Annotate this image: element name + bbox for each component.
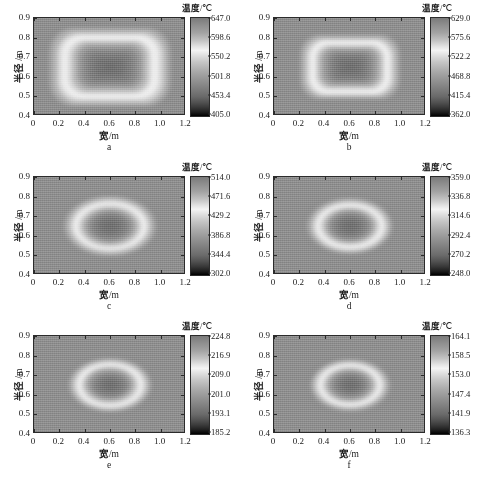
x-tick-label: 0.4 <box>318 436 329 446</box>
plot-area <box>33 335 185 433</box>
x-tick <box>135 336 136 339</box>
x-tick <box>325 336 326 339</box>
y-tick-label: 0.7 <box>248 369 270 379</box>
y-tick-label: 0.8 <box>8 32 30 42</box>
x-tick-label: 0.4 <box>318 118 329 128</box>
y-tick-label: 0.6 <box>248 389 270 399</box>
y-tick <box>421 18 424 19</box>
x-tick-label: 0 <box>31 436 36 446</box>
colorbar-ticks-e: 224.8216.9209.0201.0193.1185.2 <box>211 335 241 433</box>
x-tick-label: 0.2 <box>53 277 64 287</box>
x-tick <box>299 429 300 432</box>
x-tick <box>59 177 60 180</box>
x-tick <box>401 336 402 339</box>
x-tick <box>110 111 111 114</box>
colorbar-gradient <box>431 336 449 434</box>
colorbar-tick-label: 147.4 <box>451 389 470 399</box>
colorbar-gradient <box>191 177 209 275</box>
y-tick-label: 0.9 <box>8 330 30 340</box>
plot-f: 半径 /m <box>273 335 425 433</box>
plot-area <box>273 176 425 274</box>
x-tick-label: 1.2 <box>419 436 430 446</box>
x-tick <box>135 177 136 180</box>
x-tick <box>375 111 376 114</box>
y-tick-label: 0.6 <box>8 71 30 81</box>
y-tick <box>181 216 184 217</box>
x-tick <box>110 177 111 180</box>
panel-a: 温度/℃ 半径 /m 0.40.50.60.70.80.9 00.20.40.6… <box>0 0 240 159</box>
x-tick <box>274 429 275 432</box>
x-tick <box>161 111 162 114</box>
y-tick <box>274 236 277 237</box>
colorbar-tick-label: 362.0 <box>451 109 470 119</box>
colorbar-ticks-b: 629.0575.6522.2468.8415.4362.0 <box>451 17 480 115</box>
colorbar-tick-label: 141.9 <box>451 408 470 418</box>
y-tick-label: 0.5 <box>248 249 270 259</box>
y-tick <box>421 356 424 357</box>
panel-f: 温度/℃ 半径 /m 0.40.50.60.70.80.9 00.20.40.6… <box>240 318 480 477</box>
y-tick-label: 0.4 <box>248 110 270 120</box>
colorbar-ticks-c: 514.0471.6429.2386.8344.4302.0 <box>211 176 241 274</box>
y-tick-label: 0.6 <box>8 230 30 240</box>
x-tick-label: 1.2 <box>179 118 190 128</box>
x-tick-label: 0 <box>31 118 36 128</box>
x-tick <box>59 429 60 432</box>
panel-letter-a: a <box>33 142 185 152</box>
x-tick-label: 0.8 <box>369 277 380 287</box>
y-tick-label: 0.5 <box>8 408 30 418</box>
y-tick <box>34 236 37 237</box>
panel-e: 温度/℃ 半径 /m 0.40.50.60.70.80.9 00.20.40.6… <box>0 318 240 477</box>
field-noise <box>274 177 424 273</box>
y-tick <box>421 336 424 337</box>
x-tick <box>59 111 60 114</box>
panel-letter-b: b <box>273 142 425 152</box>
y-tick <box>34 395 37 396</box>
x-tick-label: 0.8 <box>129 118 140 128</box>
x-tick <box>350 336 351 339</box>
x-tick-label: 0.4 <box>78 277 89 287</box>
plot-area <box>33 17 185 115</box>
x-tick <box>375 177 376 180</box>
y-tick <box>181 96 184 97</box>
y-tick <box>34 375 37 376</box>
temperature-field <box>274 336 424 432</box>
y-tick-label: 0.9 <box>248 171 270 181</box>
x-tick <box>325 111 326 114</box>
x-tick <box>350 270 351 273</box>
x-tick <box>135 18 136 21</box>
x-tick <box>401 177 402 180</box>
x-tick-label: 1.2 <box>179 436 190 446</box>
colorbar-b <box>430 17 450 117</box>
temperature-field <box>274 18 424 114</box>
x-tick <box>85 270 86 273</box>
field-noise <box>34 18 184 114</box>
colorbar-tick-label: 550.2 <box>211 51 230 61</box>
panel-d: 温度/℃ 半径 /m 0.40.50.60.70.80.9 00.20.40.6… <box>240 159 480 318</box>
x-tick-label: 0.2 <box>53 118 64 128</box>
y-tick-label: 0.5 <box>8 90 30 100</box>
plot-area <box>33 176 185 274</box>
colorbar-tick-label: 302.0 <box>211 268 230 278</box>
y-tick <box>274 96 277 97</box>
x-axis-title: 宽/m <box>273 446 425 460</box>
colorbar-ticks-f: 164.1158.5153.0147.4141.9136.3 <box>451 335 480 433</box>
colorbar-tick-label: 336.8 <box>451 191 470 201</box>
plot-area <box>273 335 425 433</box>
colorbar-title: 温度/℃ <box>182 319 212 331</box>
y-tick-label: 0.9 <box>248 12 270 22</box>
y-tick <box>181 177 184 178</box>
y-tick <box>274 38 277 39</box>
y-tick <box>274 395 277 396</box>
x-tick-label: 0.4 <box>78 436 89 446</box>
y-tick <box>181 255 184 256</box>
x-tick <box>401 18 402 21</box>
y-tick-label: 0.8 <box>248 191 270 201</box>
colorbar-gradient <box>431 177 449 275</box>
x-tick <box>401 429 402 432</box>
x-tick <box>299 336 300 339</box>
x-tick <box>375 18 376 21</box>
x-tick <box>161 177 162 180</box>
y-tick <box>274 255 277 256</box>
y-tick-label: 0.7 <box>248 51 270 61</box>
x-tick <box>110 429 111 432</box>
